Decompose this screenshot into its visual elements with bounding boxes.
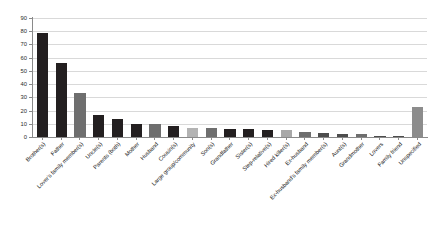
bar <box>243 129 254 137</box>
x-axis-category-label: Mother <box>124 141 141 158</box>
y-tick-label: 70 <box>6 41 27 47</box>
bar-slot <box>239 18 258 137</box>
bar-slot <box>352 18 371 137</box>
bar-chart: 0102030405060708090 Brother(s)FatherLove… <box>0 0 433 225</box>
bar <box>112 119 123 138</box>
bar-series <box>33 18 427 137</box>
y-tick-label: 50 <box>6 68 27 74</box>
bar-slot <box>314 18 333 137</box>
x-axis-category-label: Brother(s) <box>25 141 47 163</box>
bar <box>262 130 273 137</box>
bar-slot <box>371 18 390 137</box>
bar-slot <box>389 18 408 137</box>
bar <box>37 33 48 137</box>
bar-slot <box>333 18 352 137</box>
bar-slot <box>52 18 71 137</box>
y-tick-label: 80 <box>6 28 27 34</box>
bar <box>206 128 217 137</box>
bar <box>56 63 67 137</box>
x-axis-category-label: Aunt(s) <box>330 141 347 158</box>
bar-slot <box>202 18 221 137</box>
y-tick-label: 10 <box>6 121 27 127</box>
y-tick-label: 60 <box>6 55 27 61</box>
bar <box>168 126 179 137</box>
x-axis-labels: Brother(s)FatherLover's family member(s)… <box>33 140 427 225</box>
bar <box>93 115 104 137</box>
bar <box>149 124 160 137</box>
bar-slot <box>127 18 146 137</box>
bar <box>187 128 198 137</box>
bar <box>412 107 423 137</box>
bar <box>74 93 85 137</box>
bar-slot <box>146 18 165 137</box>
bar-slot <box>221 18 240 137</box>
bar <box>224 129 235 137</box>
y-tick-label: 30 <box>6 94 27 100</box>
bar-slot <box>183 18 202 137</box>
bar-slot <box>258 18 277 137</box>
bar <box>131 124 142 137</box>
bar-slot <box>33 18 52 137</box>
bar-slot <box>296 18 315 137</box>
bar-slot <box>89 18 108 137</box>
x-axis-category-label: Lovers <box>368 141 384 157</box>
x-axis-category-label: Father <box>50 141 66 157</box>
y-tick-label: 90 <box>6 15 27 21</box>
bar <box>281 130 292 137</box>
x-axis-category-label: Son(s) <box>200 141 216 157</box>
x-label-slot: Unspecified <box>408 140 427 225</box>
y-tick-label: 40 <box>6 81 27 87</box>
bar-slot <box>277 18 296 137</box>
y-tick-label: 0 <box>6 134 27 140</box>
y-tick-label: 20 <box>6 108 27 114</box>
bar-slot <box>108 18 127 137</box>
bar-slot <box>164 18 183 137</box>
bar-slot <box>71 18 90 137</box>
bar-slot <box>408 18 427 137</box>
